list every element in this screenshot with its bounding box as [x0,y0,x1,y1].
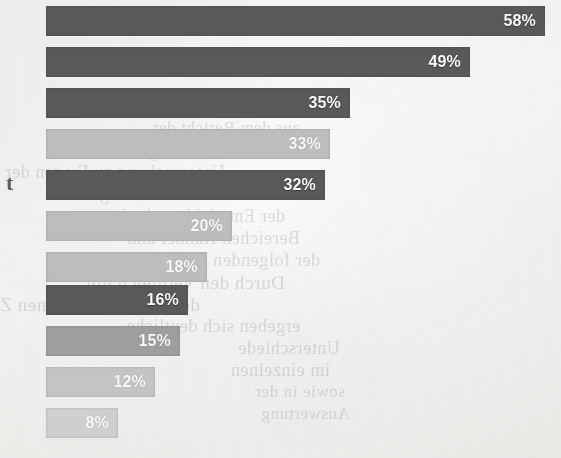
bar-value-label: 35% [308,95,350,111]
bar-value-label: 49% [428,54,470,70]
bar-row: 16% [46,285,188,315]
bar-row: 32% [46,170,325,200]
bar-row: 15% [46,326,180,356]
bar-18-percent: 18% [46,252,207,282]
bar-12-percent: 12% [46,367,155,397]
bar-row: 20% [46,211,232,241]
bar-value-label: 32% [283,177,325,193]
bar-row: 49% [46,47,470,77]
bar-58-percent: 58% [46,6,545,36]
bar-value-label: 58% [503,13,545,29]
bar-8-percent: 8% [46,408,118,438]
scanned-chart-page: aus dem Bericht deruber die Ergebnisse d… [0,0,561,458]
bar-16-percent: 16% [46,285,188,315]
bar-value-label: 8% [85,415,118,431]
bar-value-label: 16% [146,292,188,308]
bar-33-percent: 33% [46,129,330,159]
bar-value-label: 20% [190,218,232,234]
bar-row: 12% [46,367,155,397]
bar-row: 33% [46,129,330,159]
bar-row: 58% [46,6,545,36]
bar-value-label: 12% [113,374,155,390]
bar-32-percent: 32% [46,170,325,200]
bar-20-percent: 20% [46,211,232,241]
horizontal-bar-chart: 58%49%35%33%32%20%18%16%15%12%8% [0,0,561,458]
bar-value-label: 33% [288,136,330,152]
bar-row: 35% [46,88,350,118]
bar-15-percent: 15% [46,326,180,356]
bar-35-percent: 35% [46,88,350,118]
bar-row: 18% [46,252,207,282]
bar-49-percent: 49% [46,47,470,77]
bar-value-label: 15% [138,333,180,349]
bar-row: 8% [46,408,118,438]
bar-value-label: 18% [165,259,207,275]
